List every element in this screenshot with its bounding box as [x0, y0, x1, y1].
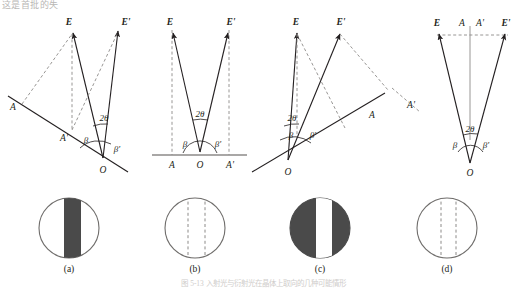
figure-caption: 图 5-13 入射光与衍射光在晶体上取向的几种可能情形 — [0, 277, 527, 288]
panel-b-label-Eprime: E' — [226, 17, 236, 27]
panel-d-label-betaprime: β' — [482, 140, 490, 150]
panel-a-dash-A-E — [22, 34, 72, 104]
panel-b-diagram: E E' A O A' 2θ β β' — [152, 17, 247, 170]
panel-b-beam-Eprime — [200, 33, 228, 152]
circle-b-group: (b) — [165, 196, 225, 275]
panel-d-label-O: O — [467, 168, 474, 178]
panel-label-d: (d) — [441, 264, 452, 275]
panel-c-label-betaprime: β' — [309, 130, 317, 140]
figure-svg: E E' A A' O 2θ β β' E E' A O — [0, 0, 527, 290]
panel-c-label-E: E — [292, 17, 299, 27]
panel-a-label-E: E — [65, 17, 72, 27]
panel-b-arc-2theta — [193, 119, 208, 120]
panel-c-surface-line — [252, 93, 385, 172]
panel-b-label-Aprime: A' — [225, 160, 235, 170]
circle-a-dark-band — [64, 196, 81, 260]
panel-a-surface-line — [8, 96, 128, 172]
panel-b-label-betaprime: β' — [214, 139, 222, 149]
circle-b-outline — [165, 198, 225, 258]
panel-b-label-beta: β — [182, 139, 188, 149]
panel-a-label-A: A — [9, 102, 16, 112]
panel-a-label-Aprime: A' — [59, 133, 69, 143]
panel-a-label-2theta: 2θ — [100, 113, 110, 123]
figure-root: 这是首批的失 E E' A — [0, 0, 527, 290]
panel-a-diagram: E E' A A' O 2θ β β' — [8, 17, 131, 175]
panel-c-label-A: A — [368, 110, 375, 120]
panel-b-label-A: A — [168, 160, 175, 170]
panel-b-label-O: O — [197, 160, 204, 170]
panel-d-arc-beta — [458, 145, 483, 152]
panel-a-label-betaprime: β' — [113, 144, 121, 154]
panel-b-beam-E — [173, 33, 200, 152]
panel-c-dash-extension — [392, 88, 420, 112]
panel-label-a: (a) — [64, 264, 75, 275]
panel-b-label-2theta: 2θ — [196, 109, 206, 119]
panel-c-dash-Eprime-A — [340, 34, 388, 90]
panel-label-c: (c) — [315, 264, 326, 275]
circle-c-group: (c) — [290, 196, 350, 275]
panel-d-label-beta: β — [452, 140, 458, 150]
panel-c-diagram: E E' A O 2θ β β' A' — [252, 17, 420, 177]
panel-d-label-Aprime: A' — [475, 18, 485, 28]
panel-d-label-2theta: 2θ — [466, 124, 476, 134]
circle-d-group: (d) — [417, 196, 477, 275]
panel-b-label-E: E — [166, 17, 173, 27]
panel-c-label-2theta: 2θ — [288, 113, 298, 123]
circle-d-outline — [417, 198, 477, 258]
panel-d-label-Eprime: E' — [501, 18, 511, 28]
panel-a-label-Eprime: E' — [121, 17, 131, 27]
circle-c-light-band — [316, 196, 332, 260]
panel-d-label-A: A — [458, 18, 465, 28]
panel-a-beam-Eprime — [103, 31, 118, 158]
panel-a-label-beta: β — [83, 135, 89, 145]
panel-c-label-beta: β — [288, 130, 294, 140]
panel-c-label-Eprime: E' — [336, 17, 346, 27]
panel-c-label-Aprime: A' — [406, 100, 416, 110]
panel-c-arc-2theta — [284, 124, 299, 126]
panel-c-label-O: O — [285, 167, 292, 177]
panel-label-b: (b) — [189, 264, 200, 275]
circle-a-group: (a) — [39, 196, 99, 275]
panel-d-diagram: E A A' E' 2θ β β' O — [433, 18, 511, 178]
panel-a-label-O: O — [100, 165, 107, 175]
panel-d-label-E: E — [433, 18, 440, 28]
panel-a-dash-Aprime-Eprime — [72, 32, 118, 130]
